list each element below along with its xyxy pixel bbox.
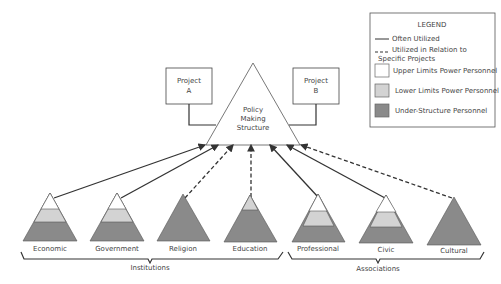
legend-under: Under-Structure Personnel [395,107,487,115]
pyramid-civic: Civic [359,195,413,254]
legend-title: LEGEND [418,21,447,29]
swatch-under [375,104,389,117]
svg-text:Associations: Associations [356,265,400,273]
svg-text:B: B [314,87,319,95]
legend-lower: Lower Limits Power Personnel [395,87,499,95]
svg-text:Project: Project [177,77,201,85]
pyramid-cultural: Cultural [427,197,481,255]
legend-specific-projects-line2: Specific Projects [378,55,435,63]
arrows [54,145,452,198]
swatch-lower [375,84,389,97]
project-a: Project A [166,68,216,125]
legend-upper: Upper Limits Power Personnel [393,67,497,75]
svg-text:Institutions: Institutions [130,264,169,272]
svg-text:Religion: Religion [169,245,197,253]
bracket-associations: Associations [288,252,484,273]
bracket-institutions: Institutions [21,252,283,272]
pyramid-education: Education [224,195,277,253]
policy-making-structure: Policy Making Structure [206,63,300,145]
project-b: Project B [289,68,339,125]
svg-text:Civic: Civic [378,246,395,254]
svg-text:Cultural: Cultural [440,247,468,255]
arrow-economic [54,145,205,198]
arrow-professional [270,145,318,197]
pyramid-government: Government [90,193,144,253]
pyramid-professional: Professional [292,194,345,253]
pyramid-religion: Religion [157,194,210,253]
svg-text:Policy: Policy [243,106,263,114]
pyramid-economic: Economic [23,193,77,253]
legend-specific-projects: Utilized in Relation to [392,46,467,54]
svg-text:Making: Making [240,115,265,123]
policy-structure-diagram: LEGEND Often Utilized Utilized in Relati… [0,0,501,284]
svg-text:Structure: Structure [237,124,270,132]
swatch-upper [375,64,389,77]
svg-text:Project: Project [304,77,328,85]
svg-text:Economic: Economic [33,245,67,253]
arrow-civic [287,145,385,198]
arrow-religion [185,145,233,198]
arrow-cultural [301,145,452,198]
svg-text:Government: Government [95,245,139,253]
svg-text:Education: Education [233,245,268,253]
svg-text:A: A [187,87,192,95]
arrow-government [121,145,218,198]
svg-text:Professional: Professional [297,245,339,253]
legend-often-utilized: Often Utilized [392,35,440,43]
legend: LEGEND Often Utilized Utilized in Relati… [370,13,499,127]
